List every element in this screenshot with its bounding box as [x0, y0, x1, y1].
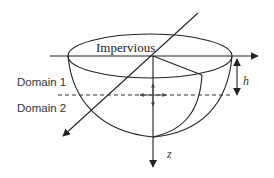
domain2-label: Domain 2 [17, 102, 66, 114]
bowl-diagram: Impervious Domain 1 Domain 2 h z [0, 0, 274, 178]
section-cut-curve [153, 75, 202, 137]
z-label: z [166, 147, 172, 161]
bowl-outer-surface [68, 56, 232, 137]
h-label: h [243, 74, 249, 88]
domain1-label: Domain 1 [17, 76, 66, 88]
diagonal-axis [63, 13, 198, 136]
impervious-label: Impervious [96, 40, 155, 55]
section-cut-line [153, 56, 202, 75]
